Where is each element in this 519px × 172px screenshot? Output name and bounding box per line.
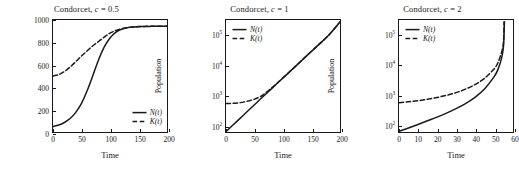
- y-tick-label: 103: [212, 92, 222, 101]
- y-tick-mark: [53, 88, 56, 89]
- legend-2: N(t)K(t): [232, 25, 262, 43]
- y-tick-label: 800: [38, 38, 49, 47]
- x-tick-mark: [496, 129, 497, 132]
- panel-condorcet-c-0.5: Condorcet, c = 0.5 Population 0200400600…: [0, 0, 173, 172]
- x-axis-label-2: Time: [225, 150, 341, 160]
- legend-key-solid-line-icon: [132, 109, 147, 116]
- x-axis-label-3: Time: [398, 150, 514, 160]
- x-tick-mark: [111, 129, 112, 132]
- legend-entry-k-of-t: K(t): [132, 117, 162, 126]
- y-tick-label: 102: [385, 122, 395, 131]
- x-tick-mark: [169, 129, 170, 132]
- x-tick-mark: [82, 129, 83, 132]
- y-tick-label: 102: [212, 123, 222, 132]
- y-tick-mark: [399, 35, 402, 36]
- legend-entry-k-of-t: K(t): [405, 34, 435, 43]
- panel-condorcet-c-2: Condorcet, c = 2 Population 102103104105…: [346, 0, 519, 172]
- legend-key-solid-line-icon: [232, 26, 247, 33]
- legend-3: N(t)K(t): [405, 25, 435, 43]
- x-tick-mark: [53, 129, 54, 132]
- y-tick-label: 104: [385, 61, 395, 70]
- legend-key-solid-line-icon: [405, 26, 420, 33]
- legend-1: N(t)K(t): [132, 108, 162, 126]
- x-tick-label: 0: [224, 135, 228, 144]
- x-tick-mark: [313, 129, 314, 132]
- y-tick-label: 200: [38, 107, 49, 116]
- y-tick-label: 0: [45, 130, 49, 139]
- y-tick-mark: [226, 96, 229, 97]
- y-tick-mark: [53, 66, 56, 67]
- x-tick-label: 50: [78, 135, 86, 144]
- y-tick-mark: [399, 65, 402, 66]
- y-tick-label: 600: [38, 61, 49, 70]
- plot-area-3: 1021031041050102030405060N(t)K(t): [398, 19, 514, 133]
- x-axis-label-1: Time: [52, 150, 168, 160]
- panel-title-3: Condorcet, c = 2: [346, 4, 519, 14]
- y-tick-mark: [53, 43, 56, 44]
- curve-k-of-t: [53, 26, 167, 76]
- legend-key-dashed-line-icon: [132, 118, 147, 125]
- x-tick-label: 20: [434, 135, 442, 144]
- x-tick-mark: [140, 129, 141, 132]
- y-tick-label: 1000: [34, 16, 49, 25]
- legend-label: K(t): [250, 34, 262, 44]
- x-tick-label: 50: [492, 135, 500, 144]
- y-axis-label-wrap-2: Population: [191, 19, 192, 133]
- y-axis-label-wrap-3: Population: [364, 19, 365, 133]
- x-tick-label: 30: [453, 135, 461, 144]
- y-tick-label: 105: [385, 30, 395, 39]
- x-tick-mark: [438, 129, 439, 132]
- y-tick-mark: [226, 66, 229, 67]
- legend-label: K(t): [423, 34, 435, 44]
- y-tick-mark: [399, 96, 402, 97]
- x-tick-label: 100: [278, 135, 289, 144]
- plot-area-2: 102103104105050100150200N(t)K(t): [225, 19, 341, 133]
- panel-title-2: Condorcet, c = 1: [173, 4, 346, 14]
- y-tick-mark: [53, 111, 56, 112]
- x-tick-mark: [418, 129, 419, 132]
- y-tick-label: 400: [38, 84, 49, 93]
- x-tick-mark: [457, 129, 458, 132]
- x-tick-label: 150: [307, 135, 318, 144]
- plot-area-1: 02004006008001000050100150200N(t)K(t): [52, 19, 168, 133]
- y-tick-mark: [53, 20, 56, 21]
- y-tick-label: 104: [212, 61, 222, 70]
- x-tick-mark: [515, 129, 516, 132]
- x-tick-mark: [476, 129, 477, 132]
- legend-key-dashed-line-icon: [405, 35, 420, 42]
- x-tick-mark: [284, 129, 285, 132]
- x-tick-label: 60: [511, 135, 519, 144]
- y-tick-label: 103: [385, 91, 395, 100]
- x-tick-mark: [255, 129, 256, 132]
- legend-entry-k-of-t: K(t): [232, 34, 262, 43]
- panel-condorcet-c-1: Condorcet, c = 1 Population 102103104105…: [173, 0, 346, 172]
- y-axis-label-3: Population: [327, 59, 336, 94]
- x-tick-label: 100: [105, 135, 116, 144]
- legend-key-dashed-line-icon: [232, 35, 247, 42]
- x-tick-label: 150: [134, 135, 145, 144]
- panel-title-1: Condorcet, c = 0.5: [0, 4, 173, 14]
- y-axis-label-2: Population: [154, 59, 163, 94]
- x-tick-mark: [342, 129, 343, 132]
- x-tick-label: 50: [251, 135, 259, 144]
- x-tick-mark: [399, 129, 400, 132]
- y-tick-mark: [226, 35, 229, 36]
- y-tick-label: 105: [212, 30, 222, 39]
- x-tick-mark: [226, 129, 227, 132]
- y-axis-label-wrap-1: Population: [18, 19, 19, 133]
- legend-label: K(t): [150, 117, 162, 127]
- x-tick-label: 0: [397, 135, 401, 144]
- figure-three-panel-population-plots: Condorcet, c = 0.5 Population 0200400600…: [0, 0, 519, 172]
- x-tick-label: 10: [415, 135, 423, 144]
- y-tick-mark: [399, 126, 402, 127]
- x-tick-label: 0: [51, 135, 55, 144]
- x-tick-label: 40: [473, 135, 481, 144]
